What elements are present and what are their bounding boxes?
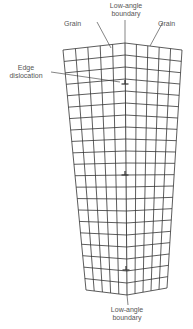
grid-row-line [84,267,127,271]
grid-row-line [78,210,126,211]
grid-column-line [167,50,182,288]
grid-row-line [126,197,172,199]
grid-row-line [67,91,125,96]
grid-row-line [71,127,126,130]
leader-boundary-bottom [127,295,128,305]
grid-column-line [75,49,94,291]
grid-row-line [126,151,176,152]
grid-row-line [73,151,126,153]
grid-column-line [100,46,110,293]
grid-row-line [126,127,177,129]
grid-row-line [85,279,127,283]
grid-row-line [72,139,126,141]
grain-lattice-grid [0,0,193,329]
grid-row-line [75,175,126,176]
label-boundary-bottom: Low-angle boundary [105,306,149,322]
label-grain-right: Grain [158,20,175,28]
grid-column-line [143,46,148,292]
grid-row-line [68,103,125,107]
grid-row-line [86,290,127,295]
grid-row-line [127,254,169,259]
grid-row-line [127,277,168,283]
grid-column-line [151,47,159,291]
grid-row-line [83,256,127,259]
grid-row-line [74,163,126,164]
label-edge-dislocation: Edge dislocation [3,64,49,80]
grid-row-line [125,91,179,95]
grid-column-line [88,47,103,292]
grid-row-line [125,103,178,107]
grid-row-line [127,265,169,271]
grid-row-line [127,288,167,295]
grid-column-line [63,50,86,290]
grid-row-line [126,209,172,211]
grid-row-line [65,67,125,73]
grid-row-line [126,115,178,118]
label-boundary-top: Low-angle boundary [104,2,148,18]
grid-row-line [127,231,171,235]
grid-row-line [64,55,125,61]
grid-row-line [125,43,182,50]
grid-row-line [125,55,181,61]
grid-row-line [126,186,173,187]
label-grain-left: Grain [64,20,81,28]
grid-row-line [63,43,125,50]
low-angle-boundary-diagram: Low-angle boundary Grain Grain Edge disl… [0,0,193,329]
grid-row-line [126,220,171,223]
grid-row-line [127,243,170,247]
grid-row-line [70,115,126,119]
grid-row-line [79,221,126,223]
grid-row-line [82,244,127,247]
grid-row-line [126,139,177,141]
grid-row-line [81,233,127,235]
grid-column-line [135,44,136,293]
grid-row-line [125,67,180,73]
grid-row-line [125,79,180,84]
leader-edge-dislocation [51,72,120,82]
leader-grain-left [97,22,111,48]
